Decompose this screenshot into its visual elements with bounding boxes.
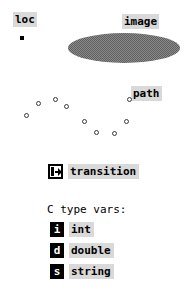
legend-row-int[interactable]: i int bbox=[50, 222, 94, 237]
point-marker-icon bbox=[20, 36, 24, 40]
open-circle-node bbox=[112, 131, 117, 136]
type-vars-heading: C type vars: bbox=[47, 203, 126, 216]
string-type-icon: s bbox=[50, 264, 64, 279]
path-label: path bbox=[131, 86, 162, 101]
transition-icon bbox=[48, 164, 63, 179]
legend-row-transition[interactable]: transition bbox=[48, 164, 139, 179]
loc-label: loc bbox=[13, 12, 37, 27]
open-circle-node bbox=[24, 113, 29, 118]
legend-row-double[interactable]: d double bbox=[50, 243, 114, 258]
string-label: string bbox=[69, 264, 114, 279]
open-circle-node bbox=[124, 119, 129, 124]
annotation-canvas: loc image path transition C type vars: i… bbox=[0, 0, 193, 289]
double-label: double bbox=[69, 243, 114, 258]
open-circle-node bbox=[82, 119, 87, 124]
open-circle-node bbox=[36, 101, 41, 106]
open-circle-node bbox=[94, 130, 99, 135]
int-label: int bbox=[69, 222, 94, 237]
filled-ellipse-region bbox=[68, 33, 180, 63]
open-circle-node bbox=[64, 104, 69, 109]
open-circle-node bbox=[53, 97, 58, 102]
double-type-icon: d bbox=[50, 243, 64, 258]
transition-label: transition bbox=[68, 164, 139, 179]
int-type-icon: i bbox=[50, 222, 64, 237]
open-circle-node bbox=[127, 97, 132, 102]
image-label: image bbox=[122, 14, 159, 29]
legend-row-string[interactable]: s string bbox=[50, 264, 114, 279]
